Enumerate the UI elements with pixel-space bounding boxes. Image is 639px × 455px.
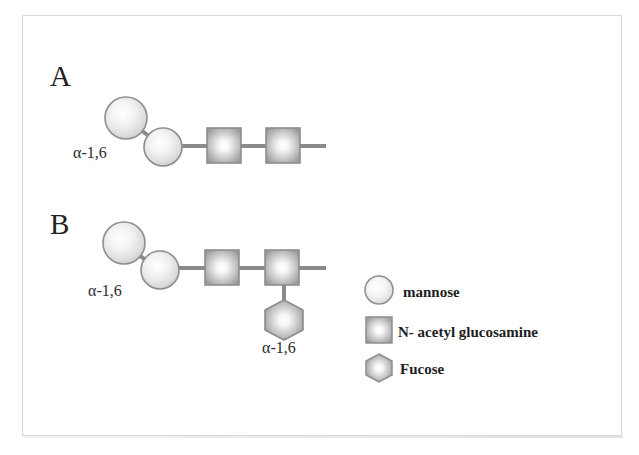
- panel-a-linkage-label: α-1,6: [73, 145, 107, 161]
- panel-b-fucose-linkage-label: α-1,6: [262, 340, 296, 356]
- panel-a-label: A: [50, 62, 71, 91]
- legend-label-fucose: Fucose: [400, 362, 444, 377]
- legend-label-mannose: mannose: [403, 285, 460, 300]
- panel-b-label: B: [50, 210, 70, 239]
- legend-label-n-acetyl-glucosamine: N- acetyl glucosamine: [398, 325, 538, 340]
- glycan-structure-figure: A B α-1,6 α-1,6 α-1,6 mannose N- acetyl …: [0, 0, 639, 455]
- figure-frame-border: [22, 15, 622, 436]
- panel-b-linkage-label: α-1,6: [88, 283, 122, 299]
